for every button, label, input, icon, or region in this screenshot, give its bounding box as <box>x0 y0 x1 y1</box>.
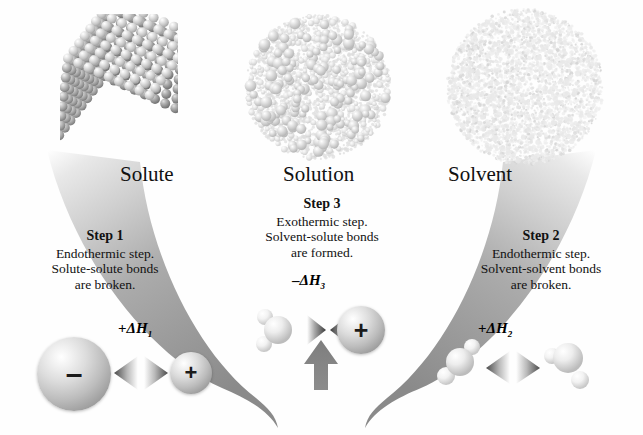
lattice-sphere <box>510 39 513 42</box>
lattice-sphere <box>268 49 272 53</box>
lattice-sphere <box>498 109 500 111</box>
lattice-sphere <box>478 121 483 126</box>
lattice-sphere <box>517 18 521 22</box>
lattice-sphere <box>263 75 265 77</box>
lattice-sphere <box>525 26 527 28</box>
lattice-sphere <box>250 91 258 99</box>
lattice-sphere <box>466 133 471 138</box>
lattice-sphere <box>509 78 511 80</box>
lattice-sphere <box>525 114 530 119</box>
lattice-sphere <box>343 144 345 146</box>
lattice-sphere <box>261 128 264 131</box>
lattice-sphere <box>571 53 574 56</box>
lattice-sphere <box>514 88 518 92</box>
lattice-sphere <box>561 60 565 64</box>
lattice-sphere <box>567 87 569 89</box>
lattice-sphere <box>293 95 302 104</box>
lattice-sphere <box>513 25 517 29</box>
lattice-sphere <box>542 26 545 29</box>
lattice-sphere <box>487 85 489 87</box>
lattice-sphere <box>558 148 560 150</box>
lattice-sphere <box>564 140 568 144</box>
lattice-sphere <box>480 80 482 82</box>
lattice-sphere <box>343 29 353 39</box>
lattice-sphere <box>337 29 341 33</box>
lattice-sphere <box>503 47 507 51</box>
lattice-sphere <box>342 19 349 26</box>
lattice-sphere <box>523 64 526 67</box>
lattice-sphere <box>537 78 539 80</box>
lattice-sphere <box>268 31 279 42</box>
lattice-sphere <box>545 132 547 134</box>
lattice-sphere <box>587 85 589 87</box>
lattice-sphere <box>598 91 601 94</box>
lattice-sphere <box>563 40 568 45</box>
lattice-sphere <box>527 25 530 28</box>
lattice-sphere <box>253 50 259 56</box>
lattice-sphere <box>568 145 570 147</box>
lattice-sphere <box>533 74 538 79</box>
lattice-sphere <box>528 56 532 60</box>
lattice-sphere <box>575 71 581 77</box>
lattice-sphere <box>285 89 287 91</box>
lattice-sphere <box>553 61 557 65</box>
lattice-sphere <box>568 89 570 91</box>
lattice-sphere <box>545 26 548 29</box>
lattice-sphere <box>507 15 509 17</box>
lattice-sphere <box>586 126 588 128</box>
lattice-sphere <box>515 124 517 126</box>
lattice-sphere <box>459 98 461 100</box>
lattice-sphere <box>550 102 554 106</box>
lattice-sphere <box>341 33 344 36</box>
lattice-sphere <box>539 22 541 24</box>
lattice-sphere <box>500 30 503 33</box>
lattice-sphere <box>324 156 326 158</box>
lattice-sphere <box>532 9 534 11</box>
lattice-sphere <box>484 71 487 74</box>
lattice-sphere <box>591 122 593 124</box>
lattice-sphere <box>534 122 536 124</box>
lattice-sphere <box>501 26 503 28</box>
lattice-sphere <box>581 63 585 67</box>
lattice-sphere <box>527 22 530 25</box>
lattice-sphere <box>567 98 570 101</box>
lattice-sphere <box>519 123 521 125</box>
lattice-sphere <box>305 97 308 100</box>
lattice-sphere <box>318 138 329 149</box>
lattice-sphere <box>459 87 461 89</box>
lattice-sphere <box>567 32 570 35</box>
lattice-sphere <box>282 57 291 66</box>
lattice-sphere <box>526 36 528 38</box>
lattice-sphere <box>496 90 499 93</box>
lattice-sphere <box>301 45 308 52</box>
lattice-sphere <box>520 47 522 49</box>
lattice-sphere <box>597 108 600 111</box>
lattice-sphere <box>512 18 514 20</box>
lattice-sphere <box>562 92 567 97</box>
lattice-sphere <box>481 68 483 70</box>
lattice-sphere <box>504 85 507 88</box>
lattice-sphere <box>585 122 589 126</box>
lattice-sphere <box>589 51 592 54</box>
lattice-sphere <box>593 113 596 116</box>
lattice-sphere <box>551 22 553 24</box>
lattice-sphere <box>467 102 472 107</box>
lattice-sphere <box>488 140 490 142</box>
lattice-sphere <box>567 28 570 31</box>
lattice-sphere <box>520 44 522 46</box>
lattice-sphere <box>567 103 569 105</box>
lattice-sphere <box>336 25 339 28</box>
lattice-sphere <box>460 100 462 102</box>
lattice-sphere <box>594 69 597 72</box>
lattice-sphere <box>358 37 361 40</box>
lattice-sphere <box>487 36 489 38</box>
lattice-sphere <box>316 102 320 106</box>
lattice-sphere <box>527 146 532 151</box>
lattice-sphere <box>577 57 580 60</box>
lattice-sphere <box>502 62 505 65</box>
lattice-sphere <box>582 69 585 72</box>
lattice-sphere <box>539 26 541 28</box>
lattice-sphere <box>367 86 371 90</box>
lattice-sphere <box>262 59 265 62</box>
lattice-sphere <box>543 70 547 74</box>
